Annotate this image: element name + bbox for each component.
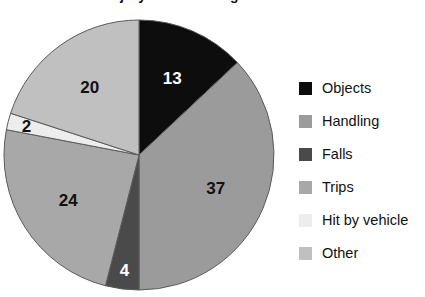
legend-swatch-icon	[299, 148, 312, 161]
legend-item[interactable]: Trips	[299, 171, 425, 204]
legend-item-label: Other	[322, 246, 358, 261]
pie-slice-value-label: 13	[163, 69, 182, 88]
pie-chart-plot-area: 1337424220	[3, 19, 275, 291]
pie-slice-group	[4, 20, 274, 290]
legend-swatch-icon	[299, 115, 312, 128]
pie-slice-value-label: 20	[80, 78, 99, 97]
pie-chart-figure: Cause of Injury as Percentage 1337424220…	[0, 0, 425, 297]
legend-item[interactable]: Objects	[299, 72, 425, 105]
legend-swatch-icon	[299, 82, 312, 95]
legend-item-label: Falls	[322, 147, 353, 162]
pie-slice-value-label: 2	[22, 117, 31, 136]
legend-swatch-icon	[299, 181, 312, 194]
legend-item[interactable]: Falls	[299, 138, 425, 171]
legend: ObjectsHandlingFallsTripsHit by vehicleO…	[299, 72, 425, 270]
chart-title: Cause of Injury as Percentage	[0, 0, 290, 3]
legend-item-label: Trips	[322, 180, 354, 195]
pie-slice-value-label: 37	[206, 179, 225, 198]
legend-swatch-icon	[299, 247, 312, 260]
legend-item-label: Objects	[322, 81, 371, 96]
pie-slice-value-label: 24	[59, 191, 78, 210]
legend-item[interactable]: Handling	[299, 105, 425, 138]
pie-chart-svg: 1337424220	[3, 19, 275, 291]
legend-swatch-icon	[299, 214, 312, 227]
legend-item-label: Hit by vehicle	[322, 213, 408, 228]
pie-slice-value-label: 4	[120, 261, 130, 280]
legend-item[interactable]: Other	[299, 237, 425, 270]
legend-item-label: Handling	[322, 114, 379, 129]
legend-item[interactable]: Hit by vehicle	[299, 204, 425, 237]
